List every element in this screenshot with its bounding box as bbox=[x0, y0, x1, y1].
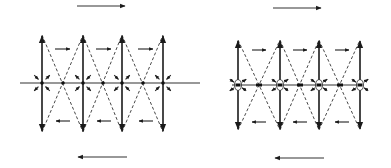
diagonal-flow-arrow bbox=[364, 79, 368, 82]
diagonal-flow-arrow bbox=[167, 75, 171, 79]
diagonal-flow-arrow bbox=[284, 88, 288, 91]
diagonal-flow-arrow bbox=[284, 79, 288, 82]
diagonal-flow-arrow bbox=[352, 88, 356, 91]
diagonal-flow-arrow bbox=[167, 87, 171, 91]
crossing-dot bbox=[61, 81, 65, 85]
node-dot bbox=[81, 81, 85, 85]
diagonal-flow-arrow bbox=[155, 87, 159, 91]
diagonal-flow-arrow bbox=[87, 87, 91, 91]
diagonal-flow-arrow bbox=[87, 75, 91, 79]
right-panel bbox=[230, 8, 368, 158]
diagonal-flow-arrow bbox=[242, 88, 246, 91]
diagonal-flow-arrow bbox=[114, 87, 118, 91]
node-square bbox=[317, 84, 322, 87]
node-dot bbox=[120, 81, 124, 85]
diagram-figure bbox=[0, 0, 391, 168]
diagonal-flow-arrow bbox=[364, 88, 368, 91]
diagonal-flow-arrow bbox=[230, 88, 234, 91]
diagonal-flow-arrow bbox=[311, 88, 315, 91]
diagonal-flow-arrow bbox=[323, 79, 327, 82]
diagonal-flow-arrow bbox=[155, 75, 159, 79]
diagonal-flow-arrow bbox=[230, 79, 234, 82]
diagonal-flow-arrow bbox=[114, 75, 118, 79]
crossing-dot bbox=[101, 81, 105, 85]
diagonal-flow-arrow bbox=[75, 75, 79, 79]
node-square bbox=[236, 84, 241, 87]
diagonal-flow-arrow bbox=[34, 75, 38, 79]
crossing-dot bbox=[141, 81, 145, 85]
crossing-square bbox=[337, 84, 343, 87]
diagonal-flow-arrow bbox=[75, 87, 79, 91]
node-square bbox=[358, 84, 363, 87]
diagonal-flow-arrow bbox=[34, 87, 38, 91]
diagonal-flow-arrow bbox=[272, 79, 276, 82]
diagram-canvas bbox=[0, 0, 391, 168]
diagonal-flow-arrow bbox=[126, 87, 130, 91]
node-square bbox=[278, 84, 283, 87]
diagonal-flow-arrow bbox=[46, 75, 50, 79]
crossing-square bbox=[256, 84, 262, 87]
left-panel bbox=[20, 6, 200, 157]
diagonal-flow-arrow bbox=[242, 79, 246, 82]
node-dot bbox=[40, 81, 44, 85]
node-dot bbox=[161, 81, 165, 85]
diagonal-flow-arrow bbox=[311, 79, 315, 82]
diagonal-flow-arrow bbox=[272, 88, 276, 91]
diagonal-flow-arrow bbox=[352, 79, 356, 82]
diagonal-flow-arrow bbox=[46, 87, 50, 91]
diagonal-flow-arrow bbox=[323, 88, 327, 91]
crossing-square bbox=[297, 84, 303, 87]
diagonal-flow-arrow bbox=[126, 75, 130, 79]
